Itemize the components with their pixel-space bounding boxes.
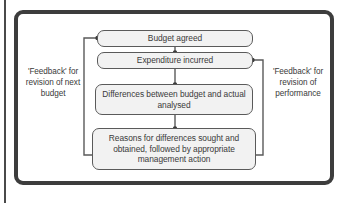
node-reasons-for-differences-label: Reasons for differences sought and obtai… xyxy=(97,133,251,165)
node-expenditure-incurred: Expenditure incurred xyxy=(97,52,253,69)
node-differences-analysed: Differences between budget and actual an… xyxy=(95,84,253,115)
node-expenditure-incurred-label: Expenditure incurred xyxy=(137,55,213,66)
diagram-screenshot: Budget agreed Expenditure incurred Diffe… xyxy=(0,0,347,203)
node-reasons-for-differences: Reasons for differences sought and obtai… xyxy=(92,128,256,170)
right-feedback-label: 'Feedback' for revision of performance xyxy=(266,66,330,100)
left-feedback-label: 'Feedback' for revision of next budget xyxy=(22,66,84,100)
node-budget-agreed-label: Budget agreed xyxy=(148,33,202,44)
node-budget-agreed: Budget agreed xyxy=(97,30,253,47)
node-differences-analysed-label: Differences between budget and actual an… xyxy=(100,89,248,110)
